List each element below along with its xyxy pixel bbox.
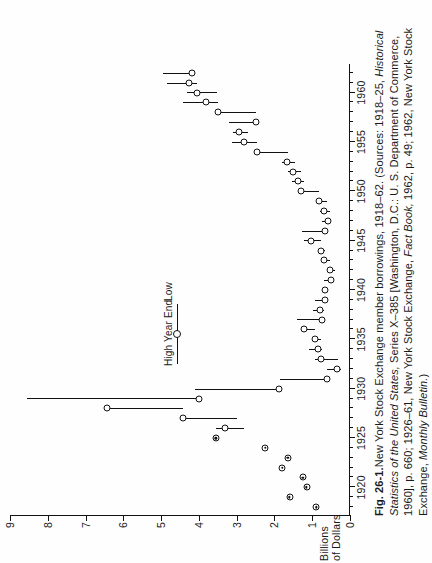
x-tick-minor [349, 171, 353, 172]
x-tick-label: 1930 [356, 377, 367, 401]
year-end-marker [307, 237, 314, 244]
x-tick-minor [349, 210, 353, 211]
y-tick-label: 8 [43, 522, 54, 528]
year-end-marker [194, 89, 201, 96]
y-tick [86, 515, 87, 521]
x-tick-label: 1940 [356, 278, 367, 302]
x-tick-minor [349, 407, 353, 408]
year-end-marker [179, 415, 186, 422]
year-end-marker [203, 99, 210, 106]
x-tick-minor [349, 319, 353, 320]
x-tick-label: 1920 [356, 475, 367, 499]
year-end-marker [254, 148, 261, 155]
caption-title-text: New York Stock Exchange member borrowing… [373, 77, 385, 468]
x-tick-minor [349, 417, 353, 418]
y-tick-label: 9 [5, 522, 16, 528]
year-end-marker [321, 257, 328, 264]
x-tick-minor [349, 358, 353, 359]
y-tick-label: 3 [231, 522, 242, 528]
x-tick-minor [349, 250, 353, 251]
x-tick-minor [349, 121, 353, 122]
y-tick [274, 515, 275, 521]
year-end-marker [321, 287, 328, 294]
year-end-marker [253, 119, 260, 126]
x-tick-minor [349, 111, 353, 112]
year-end-marker [300, 326, 307, 333]
year-end-marker [103, 405, 110, 412]
y-tick-label: 4 [194, 522, 205, 528]
figure-caption: Fig. 26-1.New York Stock Exchange member… [372, 16, 430, 516]
x-tick-minor [349, 72, 353, 73]
x-tick-label: 1950 [356, 179, 367, 203]
year-end-marker [214, 109, 221, 116]
x-tick-minor [349, 477, 353, 478]
year-end-marker [316, 198, 323, 205]
year-end-marker [327, 277, 334, 284]
x-tick-minor [349, 161, 353, 162]
year-end-marker [283, 158, 290, 165]
x-tick-minor [349, 348, 353, 349]
year-end-marker [295, 178, 302, 185]
x-tick-minor [349, 200, 353, 201]
caption-source-close: ) [417, 374, 429, 378]
legend-label-low: Low [163, 282, 174, 301]
year-end-marker [186, 79, 193, 86]
x-tick-label: 1945 [356, 229, 367, 253]
y-tick-label: 5 [156, 522, 167, 528]
year-end-marker [324, 375, 331, 382]
x-tick-label: 1935 [356, 327, 367, 351]
x-tick-minor [349, 398, 353, 399]
high-low-range-bar [256, 152, 287, 153]
year-end-marker [333, 365, 340, 372]
year-end-marker [322, 227, 329, 234]
x-tick-minor [349, 279, 353, 280]
figure-page: 0123456789 19201925193019351940194519501… [0, 0, 432, 563]
x-tick-minor [349, 378, 353, 379]
year-end-marker [289, 168, 296, 175]
y-tick [10, 515, 11, 521]
high-low-range-bar [27, 398, 199, 399]
x-tick-minor [349, 101, 353, 102]
year-end-marker [299, 474, 306, 481]
x-tick-minor [349, 82, 353, 83]
year-end-marker [284, 454, 291, 461]
x-tick-minor [349, 269, 353, 270]
high-low-range-bar [183, 102, 218, 103]
y-tick [48, 515, 49, 521]
high-low-range-bar [183, 418, 237, 419]
x-tick-minor [349, 328, 353, 329]
y-tick-label: 7 [80, 522, 91, 528]
caption-source-italic-3: Monthly Bulletin. [417, 378, 429, 460]
y-tick [161, 515, 162, 521]
x-tick-minor [349, 427, 353, 428]
y-tick [312, 515, 313, 521]
high-low-range-bar [216, 428, 244, 429]
year-end-marker [222, 425, 229, 432]
legend-label-year-end: Year End [163, 300, 174, 342]
x-tick-minor [349, 447, 353, 448]
year-end-marker [241, 138, 248, 145]
year-end-marker [189, 69, 196, 76]
x-tick-minor [349, 131, 353, 132]
year-end-marker [311, 336, 318, 343]
legend-year-end-marker-icon [173, 330, 181, 338]
year-end-marker [315, 346, 322, 353]
year-end-marker [196, 395, 203, 402]
figure-label: Fig. 26-1. [373, 467, 385, 516]
x-tick-minor [349, 309, 353, 310]
year-end-marker [325, 217, 332, 224]
y-tick-label: 2 [269, 522, 280, 528]
x-tick-minor [349, 506, 353, 507]
x-tick-minor [349, 180, 353, 181]
y-tick [237, 515, 238, 521]
year-end-marker [318, 316, 325, 323]
x-tick-minor [349, 457, 353, 458]
year-end-marker [279, 464, 286, 471]
x-tick-minor [349, 259, 353, 260]
y-tick [350, 515, 351, 521]
x-tick-minor [349, 220, 353, 221]
year-end-marker [322, 296, 329, 303]
y-tick-label: 0 [345, 522, 356, 528]
year-end-marker [212, 435, 219, 442]
chart-legend: High Year End Low [143, 244, 193, 364]
